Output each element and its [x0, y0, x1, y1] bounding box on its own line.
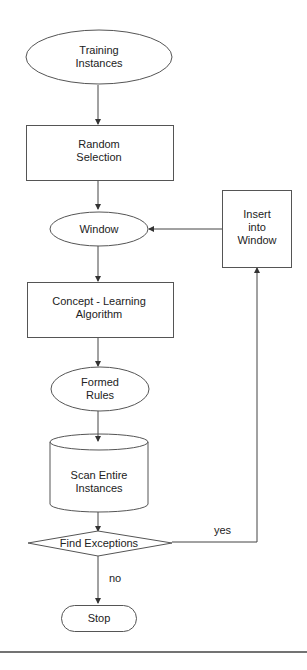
node-label: Concept - Learning	[52, 295, 146, 307]
node-random-selection: Random Selection	[27, 126, 174, 181]
node-find-exceptions: Find Exceptions	[28, 531, 172, 556]
node-window: Window	[50, 212, 148, 246]
node-label: Random	[78, 138, 120, 150]
node-label: Window	[79, 223, 118, 235]
node-label: Instances	[75, 482, 123, 494]
node-label: Formed	[81, 376, 119, 388]
node-formed-rules: Formed Rules	[51, 367, 149, 411]
node-label: into	[248, 221, 266, 233]
node-label: Rules	[86, 389, 115, 401]
edge-label-no: no	[109, 572, 121, 584]
node-label: Selection	[76, 151, 121, 163]
node-label: Stop	[88, 612, 111, 624]
node-scan-entire-instances: Scan Entire Instances	[50, 434, 148, 512]
node-label: Find Exceptions	[60, 537, 139, 549]
node-label: Scan Entire	[71, 469, 128, 481]
node-training-instances: Training Instances	[26, 30, 172, 84]
node-stop: Stop	[62, 606, 137, 632]
arrow-exceptions-to-insert	[172, 268, 257, 542]
node-label: Training	[79, 44, 118, 56]
node-label: Instances	[75, 57, 123, 69]
node-label: Insert	[243, 208, 271, 220]
node-label: Window	[237, 234, 276, 246]
edge-label-yes: yes	[214, 524, 232, 536]
node-insert-into-window: Insert into Window	[223, 191, 292, 268]
node-concept-learning-algorithm: Concept - Learning Algorithm	[28, 283, 174, 338]
node-label: Algorithm	[76, 308, 122, 320]
flowchart-canvas: Training Instances Random Selection Wind…	[0, 0, 307, 670]
